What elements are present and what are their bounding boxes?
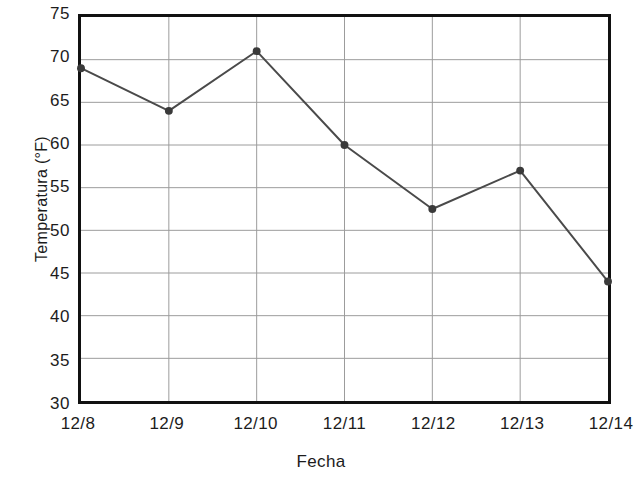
- x-axis-tick-labels: 12/812/912/1012/1112/1212/1312/14: [0, 0, 642, 487]
- x-axis-tick-label: 12/9: [119, 414, 215, 433]
- x-axis-tick-label: 12/12: [385, 414, 481, 433]
- x-axis-title: Fecha: [0, 452, 642, 472]
- x-axis-tick-label: 12/8: [30, 414, 126, 433]
- x-axis-tick-label: 12/11: [297, 414, 393, 433]
- x-axis-tick-label: 12/13: [474, 414, 570, 433]
- x-axis-tick-label: 12/10: [208, 414, 304, 433]
- temperature-line-chart: Temperatura (°F) 30354045505560657075 12…: [0, 0, 642, 487]
- x-axis-tick-label: 12/14: [563, 414, 642, 433]
